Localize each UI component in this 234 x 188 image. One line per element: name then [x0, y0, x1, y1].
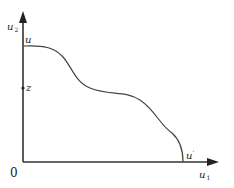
x-axis-arrow-icon: [207, 158, 219, 166]
curve-end-label: u': [186, 150, 194, 161]
origin-label: 0: [10, 167, 18, 179]
curve-start-label: u: [25, 35, 31, 45]
z-label: z: [26, 83, 31, 93]
frontier-curve: [23, 46, 183, 162]
y-axis-label: u2: [7, 22, 18, 33]
z-tick: [21, 86, 24, 89]
diagram-canvas: [0, 0, 234, 188]
y-axis-arrow-icon: [19, 11, 27, 23]
x-axis-label: u1: [199, 170, 210, 181]
